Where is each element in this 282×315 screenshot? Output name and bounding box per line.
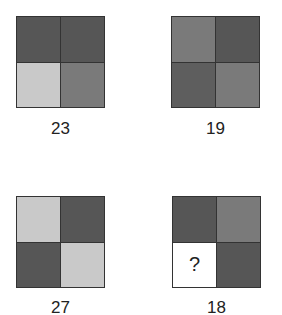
cell-dark xyxy=(17,243,60,288)
cell-dark xyxy=(17,17,60,62)
grid-2 xyxy=(171,16,260,108)
grid-1-label: 23 xyxy=(16,120,105,137)
cell-dark xyxy=(61,197,104,242)
grid-3 xyxy=(16,196,105,288)
question-mark-icon: ? xyxy=(189,253,200,276)
cell-dark xyxy=(173,197,216,242)
cell-light xyxy=(17,63,60,108)
cell-medium xyxy=(216,63,259,108)
cell-medium xyxy=(61,63,104,108)
grid-1 xyxy=(16,16,105,108)
grid-4-label: 18 xyxy=(172,299,261,315)
grid-3-label: 27 xyxy=(16,299,105,315)
cell-light xyxy=(17,197,60,242)
cell-dark xyxy=(217,243,260,288)
cell-medium xyxy=(172,17,215,62)
cell-dark xyxy=(172,63,215,108)
cell-dark xyxy=(61,17,104,62)
grid-2-label: 19 xyxy=(171,120,260,137)
grid-4: ? xyxy=(172,196,261,288)
cell-light xyxy=(61,243,104,288)
cell-medium xyxy=(217,197,260,242)
cell-dark xyxy=(216,17,259,62)
cell-unknown: ? xyxy=(173,243,216,288)
